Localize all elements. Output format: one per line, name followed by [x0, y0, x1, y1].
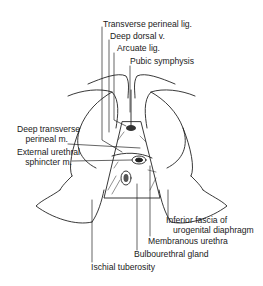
label-arcuate-lig: Arcuate lig. [117, 43, 160, 53]
urogenital-diaphragm-diagram: Transverse perineal lig. Deep dorsal v. … [0, 0, 263, 286]
label-line: Deep transverse [16, 124, 80, 134]
label-line: Inferior fascia of [166, 215, 254, 225]
label-inferior-fascia: Inferior fascia of urogenital diaphragm [166, 215, 254, 235]
label-bulbourethral-gland: Bulbourethral gland [134, 249, 209, 259]
label-pubic-symphysis: Pubic symphysis [130, 56, 194, 66]
label-deep-transverse-perineal: Deep transverse perineal m. [16, 124, 80, 144]
label-membranous-urethra: Membranous urethra [148, 236, 228, 246]
label-line: External urethral [16, 147, 80, 157]
label-ischial-tuberosity: Ischial tuberosity [91, 262, 155, 272]
label-transverse-perineal-lig: Transverse perineal lig. [103, 19, 192, 29]
label-line: sphincter m. [16, 157, 72, 167]
label-line: urogenital diaphragm [173, 225, 254, 235]
label-external-urethral-sphincter: External urethral sphincter m. [16, 147, 80, 167]
label-deep-dorsal-v: Deep dorsal v. [110, 31, 165, 41]
label-line: perineal m. [16, 134, 68, 144]
